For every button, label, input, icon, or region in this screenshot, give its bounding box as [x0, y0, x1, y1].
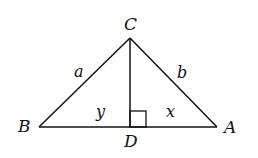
segment-label-y: y	[95, 102, 106, 121]
side-bc	[39, 38, 130, 127]
side-label-b: b	[177, 63, 187, 82]
right-angle-marker	[130, 111, 146, 127]
vertex-label-b: B	[17, 116, 31, 136]
vertex-label-d: D	[123, 131, 138, 151]
side-label-a: a	[74, 62, 84, 81]
vertex-label-c: C	[124, 14, 137, 34]
vertex-label-a: A	[222, 117, 236, 137]
triangle-diagram: C B A D a b y x	[0, 0, 258, 158]
segment-label-x: x	[166, 102, 175, 121]
